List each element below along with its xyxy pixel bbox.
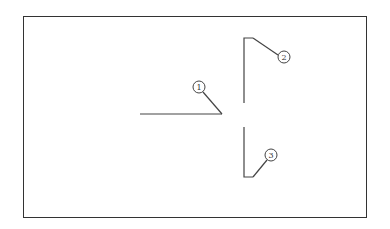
part-3-lower-bracket: [244, 127, 267, 177]
part-2-upper-bracket: [244, 38, 278, 103]
callout-2-label: 2: [281, 53, 286, 62]
callout-1-label: 1: [196, 83, 201, 92]
callout-2: 2: [278, 51, 290, 63]
part-1-horizontal-line: [140, 92, 222, 114]
callout-1: 1: [193, 81, 205, 93]
callout-3: 3: [265, 149, 277, 161]
callout-3-label: 3: [268, 151, 273, 160]
diagram-canvas: 1 2 3: [0, 0, 390, 229]
